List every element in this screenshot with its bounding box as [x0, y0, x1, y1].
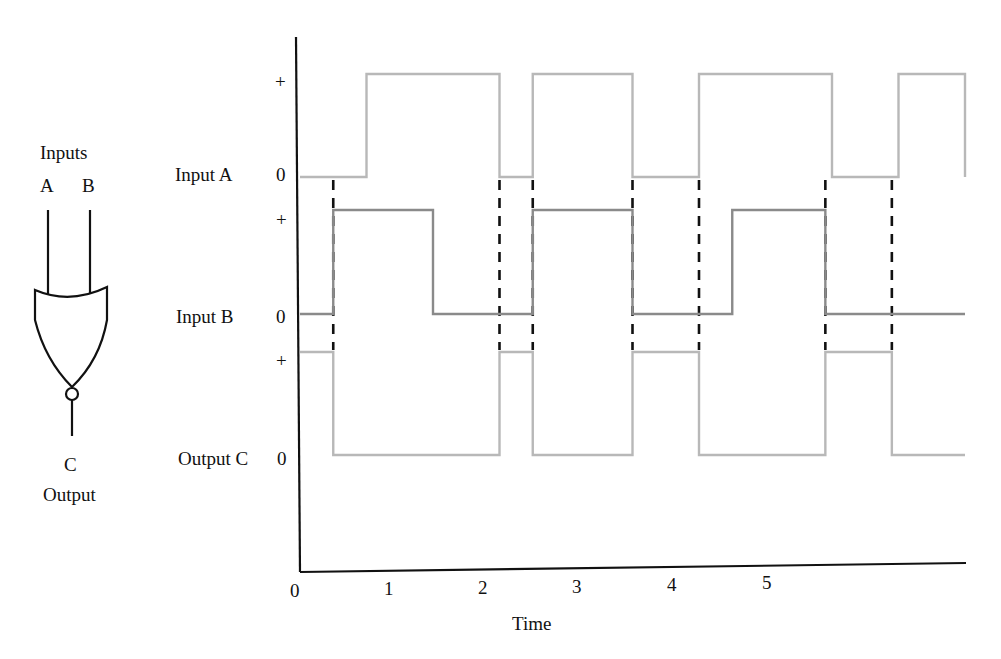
- waveform-output-c: [300, 352, 965, 455]
- waveforms: [300, 74, 965, 455]
- nor-gate-icon: [35, 210, 107, 436]
- waveform-input-a: [300, 74, 965, 177]
- axes: [296, 37, 966, 572]
- waveform-input-b: [300, 210, 965, 314]
- transition-markers: [333, 180, 892, 350]
- timing-diagram: [0, 0, 1001, 659]
